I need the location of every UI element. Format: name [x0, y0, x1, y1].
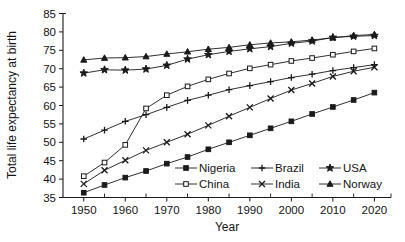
- chart-canvas: 3540455055606570758085195019601970198019…: [0, 0, 405, 242]
- data-point-filled-square: [248, 133, 253, 138]
- data-point-star: [142, 65, 150, 72]
- legend-item-usa[interactable]: USA: [319, 162, 367, 174]
- chart-legend: NigeriaBrazilUSAChinaIndiaNorway: [175, 162, 382, 190]
- data-point-cross: [205, 122, 211, 128]
- data-point-cross: [268, 96, 274, 102]
- data-point-plus: [350, 64, 357, 71]
- data-point-cross: [143, 147, 149, 153]
- data-point-open-square: [123, 143, 128, 148]
- data-point-filled-square: [331, 105, 336, 110]
- y-axis-title: Total life expectancy at birth: [5, 31, 19, 179]
- data-point-open-square: [102, 160, 107, 165]
- data-point-plus: [205, 92, 212, 99]
- legend-item-china[interactable]: China: [175, 178, 230, 190]
- data-point-filled-square: [81, 190, 86, 195]
- data-point-filled-square: [227, 140, 232, 145]
- legend-label-china: China: [199, 178, 230, 190]
- data-point-plus: [163, 104, 170, 111]
- legend-item-norway[interactable]: Norway: [319, 178, 382, 190]
- data-point-cross: [122, 157, 128, 163]
- data-point-filled-square: [144, 169, 149, 174]
- data-point-cross: [247, 104, 253, 110]
- data-point-plus: [267, 78, 274, 85]
- data-point-filled-square: [206, 147, 211, 152]
- data-point-open-square: [164, 93, 169, 98]
- data-point-open-square: [227, 71, 232, 76]
- data-point-cross: [226, 113, 232, 119]
- data-point-plus: [226, 86, 233, 93]
- data-point-filled-square: [310, 112, 315, 117]
- data-point-plus: [122, 118, 129, 125]
- y-tick-label: 35: [43, 192, 56, 204]
- data-point-open-square: [289, 59, 294, 64]
- x-tick-label: 2000: [279, 204, 305, 216]
- data-point-filled-square: [351, 98, 356, 103]
- life-expectancy-chart: 3540455055606570758085195019601970198019…: [0, 0, 405, 242]
- data-point-open-square: [372, 46, 377, 51]
- data-point-filled-square: [123, 175, 128, 180]
- legend-item-india[interactable]: India: [251, 178, 301, 190]
- y-tick-label: 80: [43, 26, 56, 38]
- data-point-open-square: [81, 174, 86, 179]
- data-point-filled-square: [289, 119, 294, 124]
- x-tick-label: 2020: [362, 204, 388, 216]
- y-tick-label: 45: [43, 155, 56, 167]
- legend-item-nigeria[interactable]: Nigeria: [175, 162, 236, 174]
- data-point-star: [121, 66, 129, 73]
- data-point-star: [80, 69, 88, 76]
- data-point-plus: [259, 165, 266, 172]
- y-tick-label: 85: [43, 8, 56, 20]
- x-tick-label: 1950: [71, 204, 97, 216]
- data-point-cross: [309, 80, 315, 86]
- legend-label-india: India: [275, 178, 301, 190]
- y-tick-label: 70: [43, 63, 56, 75]
- data-point-filled-square: [372, 90, 377, 95]
- x-axis-title: Year: [215, 220, 239, 234]
- data-point-star: [184, 55, 192, 62]
- data-point-cross: [185, 131, 191, 137]
- y-tick-label: 50: [43, 136, 56, 148]
- data-point-open-square: [351, 49, 356, 54]
- data-point-plus: [330, 67, 337, 74]
- data-point-filled-square: [164, 161, 169, 166]
- data-point-cross: [164, 139, 170, 145]
- x-tick-label: 1980: [196, 204, 222, 216]
- x-tick-label: 1960: [112, 204, 138, 216]
- x-tick-label: 1970: [154, 204, 180, 216]
- data-point-open-square: [185, 84, 190, 89]
- data-point-filled-square: [268, 126, 273, 131]
- x-tick-label: 1990: [237, 204, 263, 216]
- data-point-open-square: [310, 56, 315, 61]
- series-norway: [81, 31, 378, 62]
- data-point-star: [101, 66, 109, 73]
- x-tick-label: 2010: [320, 204, 346, 216]
- data-point-plus: [247, 82, 254, 89]
- legend-label-nigeria: Nigeria: [199, 162, 236, 174]
- data-point-open-square: [248, 66, 253, 71]
- data-point-plus: [309, 71, 316, 78]
- data-point-filled-square: [184, 166, 189, 171]
- legend-item-brazil[interactable]: Brazil: [251, 162, 304, 174]
- legend-label-norway: Norway: [343, 178, 382, 190]
- data-point-plus: [288, 74, 295, 81]
- data-point-plus: [184, 97, 191, 104]
- y-tick-label: 75: [43, 44, 56, 56]
- data-point-cross: [102, 167, 108, 173]
- legend-label-brazil: Brazil: [275, 162, 304, 174]
- y-tick-label: 55: [43, 118, 56, 130]
- data-point-star: [163, 61, 171, 68]
- data-point-plus: [101, 127, 108, 134]
- y-tick-label: 65: [43, 81, 56, 93]
- data-point-star: [326, 164, 334, 171]
- legend-label-usa: USA: [343, 162, 367, 174]
- data-point-plus: [80, 136, 87, 143]
- data-point-filled-square: [102, 183, 107, 188]
- data-point-open-square: [144, 106, 149, 111]
- y-tick-label: 40: [43, 173, 56, 185]
- y-tick-label: 60: [43, 100, 56, 112]
- data-point-cross: [330, 73, 336, 79]
- data-point-cross: [288, 87, 294, 93]
- data-point-cross: [81, 181, 87, 187]
- data-point-open-square: [206, 77, 211, 82]
- data-point-open-square: [331, 52, 336, 57]
